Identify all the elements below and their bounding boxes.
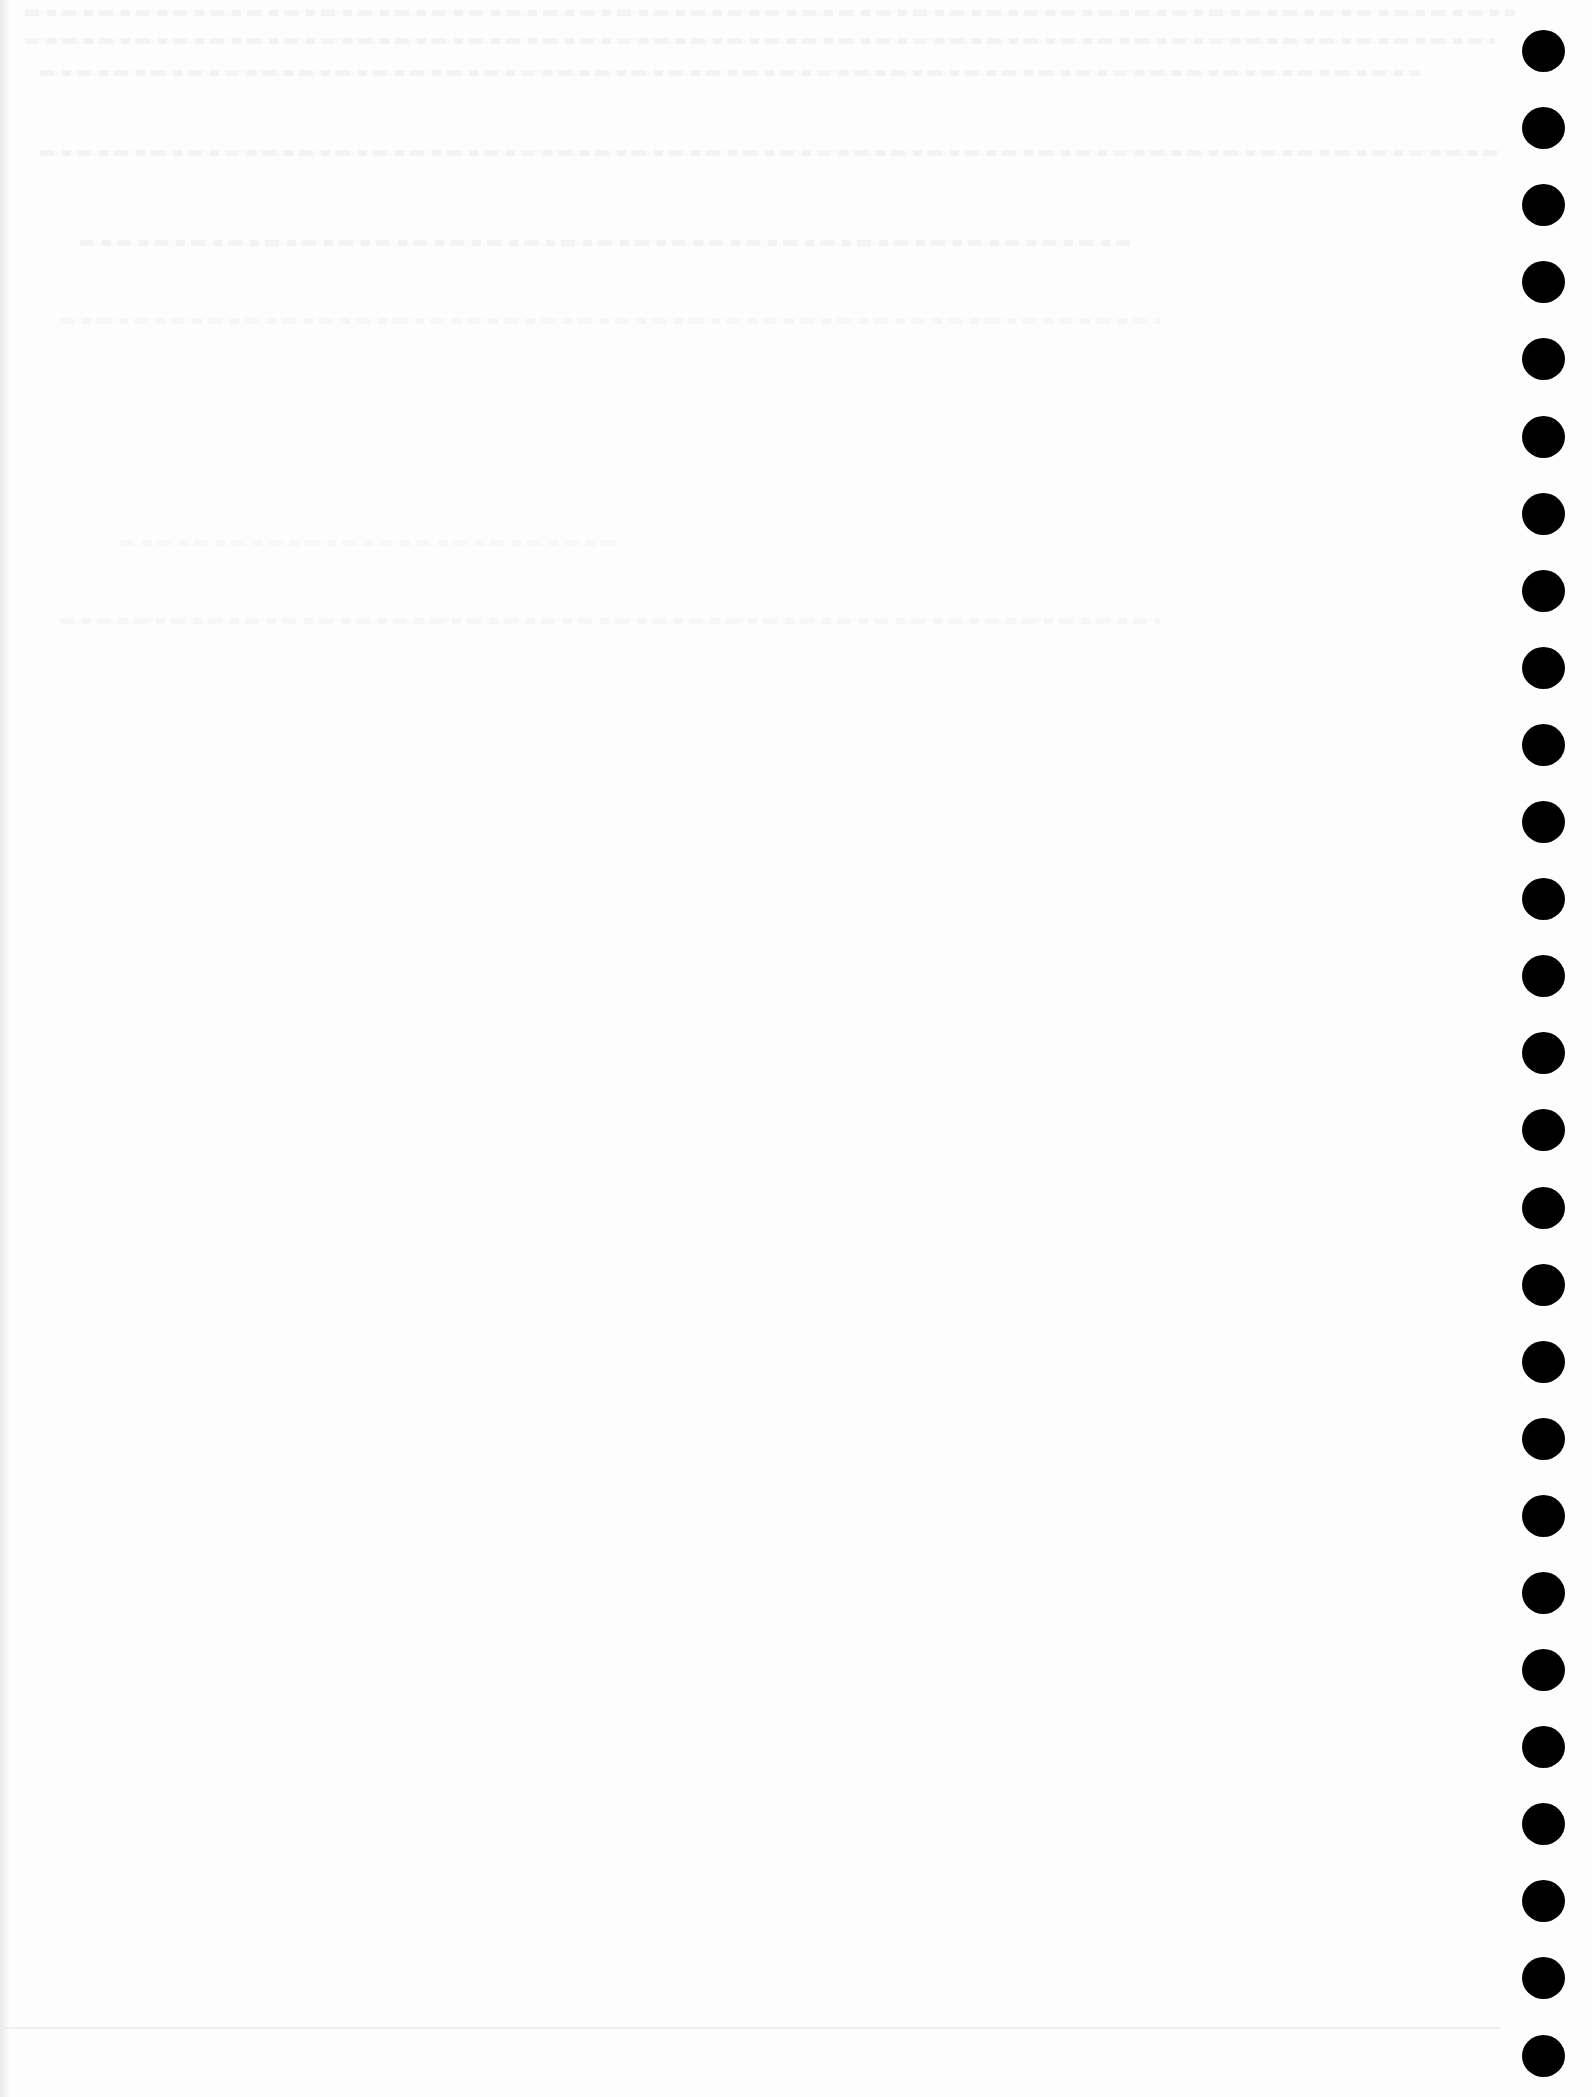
binding-hole (1522, 1572, 1565, 1614)
binding-hole (1522, 1726, 1565, 1768)
binding-hole (1522, 570, 1565, 612)
show-through-line (80, 240, 1130, 246)
binding-hole (1522, 338, 1565, 380)
show-through-line (60, 318, 1160, 324)
show-through-line (40, 150, 1500, 156)
show-through-line (25, 38, 1495, 44)
binding-hole (1522, 1187, 1565, 1229)
binding-hole (1522, 1803, 1565, 1845)
binding-hole (1522, 261, 1565, 303)
binding-hole (1522, 724, 1565, 766)
binding-hole (1522, 878, 1565, 920)
binding-holes-column (1522, 30, 1566, 2080)
binding-hole (1522, 416, 1565, 458)
binding-hole (1522, 1495, 1565, 1537)
scanned-page (0, 0, 1592, 2097)
binding-hole (1522, 30, 1565, 72)
binding-hole (1522, 955, 1565, 997)
binding-hole (1522, 1418, 1565, 1460)
binding-hole (1522, 493, 1565, 535)
show-through-line (40, 70, 1420, 76)
binding-hole (1522, 1264, 1565, 1306)
show-through-line (25, 10, 1515, 16)
show-through-line (120, 540, 620, 546)
binding-hole (1522, 1649, 1565, 1691)
binding-hole (1522, 1341, 1565, 1383)
binding-hole (1522, 1109, 1565, 1151)
binding-hole (1522, 1957, 1565, 1999)
binding-hole (1522, 647, 1565, 689)
show-through-line (60, 618, 1160, 624)
binding-hole (1522, 1032, 1565, 1074)
binding-hole (1522, 107, 1565, 149)
binding-hole (1522, 2035, 1565, 2077)
show-through-rule (0, 2027, 1500, 2029)
binding-hole (1522, 801, 1565, 843)
binding-hole (1522, 184, 1565, 226)
scanner-edge-shadow (0, 0, 10, 2097)
binding-hole (1522, 1880, 1565, 1922)
